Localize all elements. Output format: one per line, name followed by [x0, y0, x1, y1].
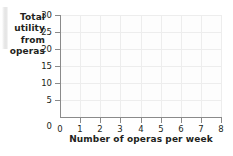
y-tick-label: 5 [32, 96, 52, 105]
y-axis-tick [55, 100, 60, 101]
x-axis-tick [80, 118, 81, 123]
y-gridline [61, 15, 222, 16]
x-tick-label: 3 [111, 125, 129, 134]
y-axis-tick [55, 15, 60, 16]
x-axis-tick [181, 118, 182, 123]
x-tick-label: 4 [132, 125, 150, 134]
y-axis-tick [55, 83, 60, 84]
x-axis-title: Number of operas per week [52, 134, 230, 144]
x-axis-tick [221, 118, 222, 123]
x-tick-label: 2 [91, 125, 109, 134]
y-gridline [61, 32, 222, 33]
y-axis-tick [55, 66, 60, 67]
y-tick-label: 25 [32, 28, 52, 37]
y-gridline [61, 83, 222, 84]
x-tick-label: 0 [51, 125, 69, 134]
y-tick-label: 10 [32, 79, 52, 88]
x-tick-label: 7 [192, 125, 210, 134]
y-axis-tick [55, 49, 60, 50]
x-axis-tick [120, 118, 121, 123]
x-axis-tick [161, 118, 162, 123]
y-axis-tick [55, 32, 60, 33]
x-axis-tick [141, 118, 142, 123]
x-tick-label: 5 [152, 125, 170, 134]
x-axis-tick [100, 118, 101, 123]
y-tick-label: 20 [32, 45, 52, 54]
chart-screenshot: Total utility from operas 051015202530 0… [0, 0, 233, 156]
x-tick-label: 8 [212, 125, 230, 134]
x-tick-label: 6 [172, 125, 190, 134]
x-tick-label: 1 [71, 125, 89, 134]
x-axis-tick [201, 118, 202, 123]
y-gridline [61, 100, 222, 101]
y-tick-label: 0 [32, 122, 52, 131]
y-gridline [61, 49, 222, 50]
y-tick-label: 30 [32, 11, 52, 20]
y-gridline [61, 66, 222, 67]
plot-area [60, 15, 222, 118]
y-tick-label: 15 [32, 62, 52, 71]
